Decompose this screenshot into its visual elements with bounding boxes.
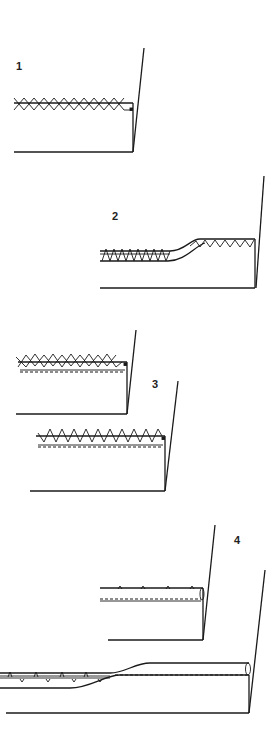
panel-label-3: 3 xyxy=(152,378,158,390)
cross-stitches xyxy=(14,98,133,111)
cross-stitches xyxy=(16,354,127,367)
panel-3b: 3 xyxy=(30,378,178,491)
panel-label-2: 2 xyxy=(112,210,118,222)
panel-label-4: 4 xyxy=(234,534,241,546)
panel-label-1: 1 xyxy=(16,60,22,72)
panel-3a xyxy=(16,330,136,414)
panel-4a: 4 xyxy=(100,525,241,640)
panel-2: 2 xyxy=(100,176,264,288)
panel-4b xyxy=(0,570,265,713)
hem-stitch-diagram: 1 2 xyxy=(0,0,280,752)
panel-1: 1 xyxy=(14,48,144,152)
